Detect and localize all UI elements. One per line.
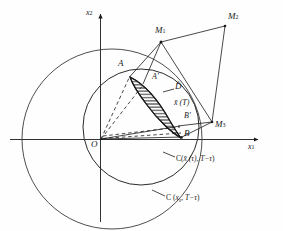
curve-label-xbar-T: x̄ (T) — [174, 99, 189, 107]
point-label-B-prime: B' — [184, 112, 191, 120]
circle-label-inner-close: ) — [212, 154, 215, 163]
axis-label-x2-sub: 2 — [90, 10, 93, 16]
axis-label-x1: x1 — [248, 143, 255, 151]
region-label-D-hat: D̂ — [175, 82, 182, 91]
point-label-B: B — [184, 129, 190, 138]
edge-M1-M2 — [161, 26, 225, 42]
point-label-M3: M3 — [215, 120, 226, 129]
circle-label-inner-arg1: x̄ (τ) — [184, 154, 197, 163]
circle-label-inner-open: C( — [176, 154, 184, 163]
diagram-svg — [0, 0, 283, 231]
dot-M3 — [211, 121, 214, 124]
rays-from-origin — [101, 126, 182, 139]
dot-M2 — [224, 25, 227, 28]
curve-label-xbar-arg: (T) — [180, 98, 190, 107]
circle-label-inner-comma: , — [196, 154, 198, 163]
figure-canvas: x2 x1 O A A' B' B M1 M2 M3 D̂ x̄ (T) C(x… — [0, 0, 283, 231]
lens-region-D-hat — [130, 77, 181, 138]
leader-inner-circle — [163, 152, 175, 157]
circle-label-outer: C (x₀, T−τ) — [166, 194, 199, 202]
point-label-M2-sub: 2 — [236, 14, 239, 20]
edge-M3-M1 — [161, 42, 212, 122]
point-label-A: A — [118, 59, 124, 68]
point-label-M1: M1 — [155, 26, 166, 35]
point-label-A-prime: A' — [152, 73, 159, 81]
circle-label-inner-arg2: T−τ — [200, 154, 212, 163]
circle-label-outer-open: C ( — [166, 193, 175, 202]
leader-outer-circle — [152, 190, 165, 196]
axis-label-x2: x2 — [86, 9, 93, 17]
circle-label-outer-arg2: T−τ — [185, 193, 197, 202]
leader-D-hat — [163, 89, 174, 92]
point-label-M2: M2 — [228, 12, 239, 21]
point-label-O: O — [91, 140, 98, 149]
circle-label-outer-close: ) — [197, 193, 200, 202]
point-label-M3-sub: 3 — [223, 122, 226, 128]
polygon-M1-M2-M3 — [161, 26, 225, 122]
edge-M2-M3 — [212, 26, 225, 122]
axis-lines — [10, 14, 258, 222]
dot-B — [180, 136, 183, 139]
axis-label-x1-sub: 1 — [252, 144, 255, 150]
circle-label-inner: C(x̄ (τ), T−τ) — [176, 155, 215, 163]
point-label-M1-sub: 1 — [163, 28, 166, 34]
segment-M3-Bprime — [178, 122, 212, 126]
circle-label-outer-comma: , — [181, 193, 183, 202]
dashed-O-B-upper — [103, 127, 180, 136]
dot-M1 — [160, 41, 163, 44]
curve-label-xbar-sym: x̄ — [174, 98, 178, 107]
